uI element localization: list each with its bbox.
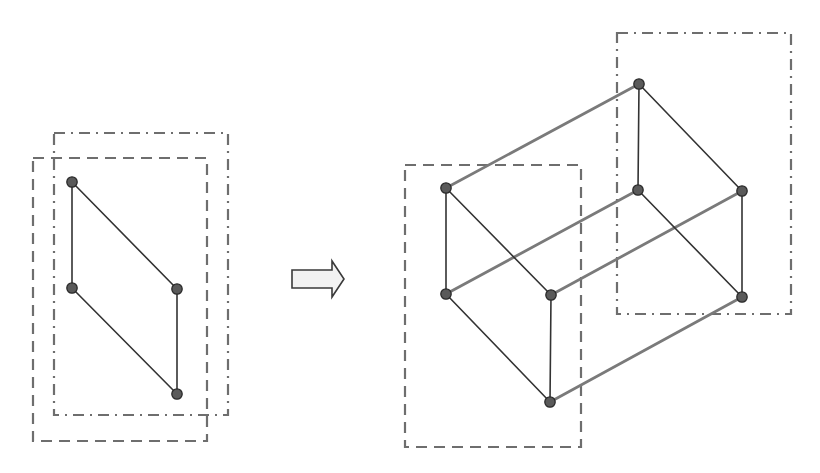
front-edge xyxy=(550,295,551,402)
extrusion-diagram xyxy=(0,0,820,473)
left-parallelogram-edges xyxy=(72,182,177,394)
left-parallelogram-vertices xyxy=(67,177,182,399)
connector-edge xyxy=(551,191,742,295)
left-figure-2d-parallelogram xyxy=(33,133,228,441)
diagram-canvas xyxy=(0,0,820,473)
left-edge xyxy=(72,182,177,289)
vertex-dot xyxy=(634,79,644,89)
right-block-arrow-icon xyxy=(292,261,344,297)
front-edge xyxy=(446,294,550,402)
prism-connector-edges xyxy=(446,84,742,402)
vertex-dot xyxy=(546,290,556,300)
front-edge xyxy=(446,188,551,295)
prism-vertices xyxy=(441,79,747,407)
connector-edge xyxy=(446,190,638,294)
vertex-dot xyxy=(172,389,182,399)
vertex-dot xyxy=(172,284,182,294)
left-dashdot-frame xyxy=(54,133,228,415)
vertex-dot xyxy=(737,292,747,302)
right-figure-3d-prism xyxy=(405,33,791,447)
back-edge xyxy=(638,190,742,297)
prism-face-edges xyxy=(446,84,742,402)
vertex-dot xyxy=(737,186,747,196)
connector-edge xyxy=(446,84,639,188)
back-edge xyxy=(639,84,742,191)
vertex-dot xyxy=(67,283,77,293)
vertex-dot xyxy=(67,177,77,187)
vertex-dot xyxy=(441,289,451,299)
vertex-dot xyxy=(545,397,555,407)
vertex-dot xyxy=(441,183,451,193)
back-edge xyxy=(638,84,639,190)
left-edge xyxy=(72,288,177,394)
connector-edge xyxy=(550,297,742,402)
back-dashdot-frame xyxy=(617,33,791,314)
vertex-dot xyxy=(633,185,643,195)
left-dashed-frame xyxy=(33,158,207,441)
